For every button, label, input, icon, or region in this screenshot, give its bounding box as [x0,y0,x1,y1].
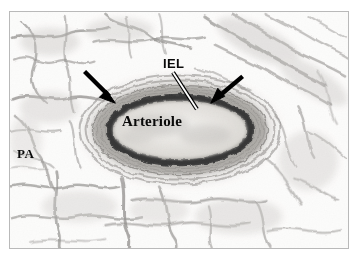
iel-leader-line [173,72,197,109]
figure-container: IEL Arteriole PA [0,0,358,263]
label-iel: IEL [163,56,184,71]
label-arteriole: Arteriole [122,113,182,130]
right-arrow [211,76,243,103]
annotation-overlay [10,12,348,248]
left-arrow [85,71,116,103]
micrograph-frame [9,11,349,249]
label-pa: PA [17,146,34,162]
